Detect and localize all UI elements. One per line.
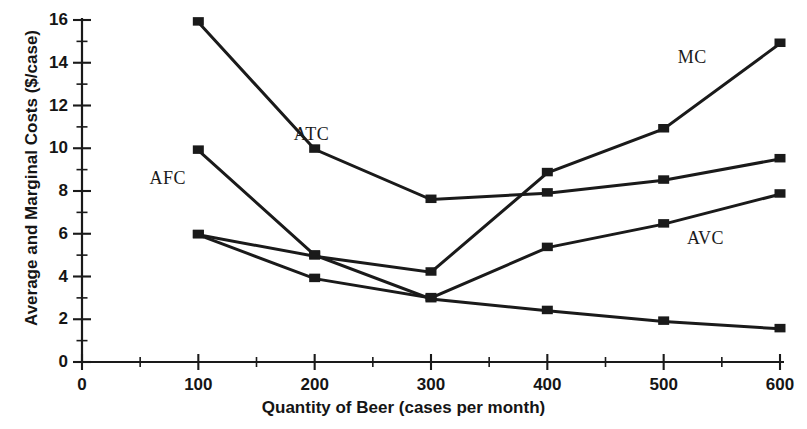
data-point-afc-300 bbox=[426, 294, 437, 303]
data-point-atc-300 bbox=[426, 195, 437, 204]
data-point-mc-300 bbox=[426, 267, 437, 276]
cost-curves-chart: Average and Marginal Costs ($/case) Quan… bbox=[0, 0, 807, 429]
data-point-mc-600 bbox=[775, 39, 786, 48]
series-lines bbox=[198, 22, 780, 329]
data-point-afc-100 bbox=[193, 145, 204, 154]
data-point-avc-200 bbox=[309, 274, 320, 283]
data-point-atc-600 bbox=[775, 154, 786, 163]
data-point-avc-100 bbox=[193, 230, 204, 239]
data-point-atc-100 bbox=[193, 17, 204, 26]
data-point-mc-500 bbox=[658, 124, 669, 133]
series-line-atc bbox=[198, 22, 780, 199]
series-line-avc bbox=[198, 194, 780, 298]
data-point-afc-200 bbox=[309, 250, 320, 259]
data-point-afc-600 bbox=[775, 324, 786, 333]
data-point-mc-400 bbox=[542, 168, 553, 177]
axis-lines bbox=[82, 18, 784, 362]
data-point-atc-500 bbox=[658, 175, 669, 184]
series-line-mc bbox=[198, 44, 780, 273]
data-point-avc-600 bbox=[775, 189, 786, 198]
data-point-avc-400 bbox=[542, 243, 553, 252]
data-point-atc-400 bbox=[542, 188, 553, 197]
data-point-atc-200 bbox=[309, 144, 320, 153]
series-line-afc bbox=[198, 150, 780, 328]
plot-area bbox=[0, 0, 807, 429]
data-point-avc-500 bbox=[658, 219, 669, 228]
data-point-afc-400 bbox=[542, 306, 553, 315]
data-point-afc-500 bbox=[658, 316, 669, 325]
